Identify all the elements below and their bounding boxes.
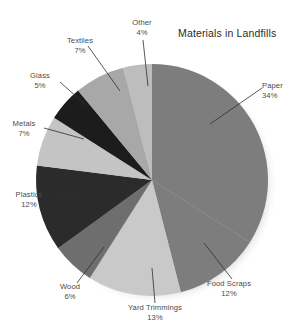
slice-label-plastics-pct: 12%	[6, 200, 52, 210]
slice-label-food-scraps: Food Scraps 12%	[196, 279, 262, 298]
slice-label-wood: Wood 6%	[48, 282, 92, 301]
slice-label-plastics-name: Plastics	[6, 190, 52, 200]
slice-label-textiles-pct: 7%	[59, 46, 101, 56]
slice-label-paper-name: Paper	[262, 81, 283, 91]
slice-label-metals: Metals 7%	[4, 119, 44, 138]
slice-label-yard-trimmings-pct: 13%	[113, 313, 197, 323]
slice-label-wood-name: Wood	[48, 282, 92, 292]
slice-label-glass: Glass 5%	[22, 71, 58, 90]
slice-label-glass-pct: 5%	[22, 81, 58, 91]
slice-label-metals-name: Metals	[4, 119, 44, 129]
pie-slices	[36, 64, 268, 296]
slice-label-food-scraps-pct: 12%	[196, 289, 262, 299]
slice-label-plastics: Plastics 12%	[6, 190, 52, 209]
slice-label-metals-pct: 7%	[4, 129, 44, 139]
pie-chart-figure: Materials in Landfills Paper 34% Food Sc…	[0, 0, 299, 335]
slice-label-wood-pct: 6%	[48, 292, 92, 302]
slice-label-paper-pct: 34%	[262, 91, 283, 101]
slice-label-textiles-name: Textiles	[59, 36, 101, 46]
slice-label-yard-trimmings-name: Yard Trimmings	[113, 303, 197, 313]
slice-label-other-name: Other	[122, 18, 162, 28]
slice-label-food-scraps-name: Food Scraps	[196, 279, 262, 289]
slice-label-glass-name: Glass	[22, 71, 58, 81]
slice-label-other-pct: 4%	[122, 28, 162, 38]
slice-label-textiles: Textiles 7%	[59, 36, 101, 55]
slice-label-yard-trimmings: Yard Trimmings 13%	[113, 303, 197, 322]
slice-label-other: Other 4%	[122, 18, 162, 37]
chart-title: Materials in Landfills	[178, 27, 276, 39]
slice-label-paper: Paper 34%	[262, 81, 283, 100]
